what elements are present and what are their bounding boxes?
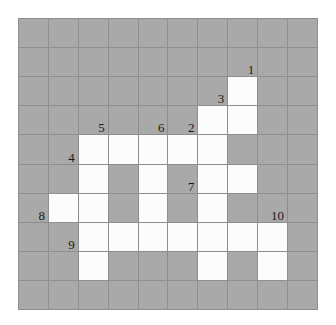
puzzle-grid[interactable]: 13562478109 (18, 18, 318, 310)
grid-cell-r3-c3[interactable] (109, 106, 138, 134)
grid-cell-r6-c1[interactable] (49, 194, 78, 222)
grid-cell-r9-c6[interactable] (198, 281, 227, 309)
grid-cell-r5-c6[interactable] (198, 165, 227, 193)
grid-cell-r2-c7[interactable] (228, 77, 257, 105)
grid-cell-r7-c2[interactable] (79, 223, 108, 251)
grid-cell-r2-c6[interactable]: 3 (198, 77, 227, 105)
grid-cell-r5-c5[interactable]: 7 (168, 165, 197, 193)
grid-cell-r3-c4[interactable]: 6 (139, 106, 168, 134)
grid-cell-r4-c6[interactable] (198, 135, 227, 163)
grid-cell-r9-c7[interactable] (228, 281, 257, 309)
grid-cell-r4-c7[interactable] (228, 135, 257, 163)
grid-cell-r4-c4[interactable] (139, 135, 168, 163)
grid-cell-r7-c6[interactable] (198, 223, 227, 251)
grid-cell-r4-c8[interactable] (258, 135, 287, 163)
grid-cell-r7-c7[interactable] (228, 223, 257, 251)
grid-cell-r4-c5[interactable] (168, 135, 197, 163)
grid-cell-r5-c2[interactable] (79, 165, 108, 193)
grid-cell-r1-c6[interactable] (198, 48, 227, 76)
grid-cell-r6-c8[interactable]: 10 (258, 194, 287, 222)
grid-cell-r0-c2[interactable] (79, 19, 108, 47)
grid-cell-r4-c0[interactable] (19, 135, 48, 163)
grid-cell-r4-c3[interactable] (109, 135, 138, 163)
grid-cell-r1-c4[interactable] (139, 48, 168, 76)
grid-cell-r3-c8[interactable] (258, 106, 287, 134)
grid-cell-r8-c6[interactable] (198, 252, 227, 280)
grid-cell-r9-c3[interactable] (109, 281, 138, 309)
grid-cell-r2-c5[interactable] (168, 77, 197, 105)
grid-cell-r7-c3[interactable] (109, 223, 138, 251)
grid-cell-r6-c5[interactable] (168, 194, 197, 222)
grid-cell-r9-c0[interactable] (19, 281, 48, 309)
grid-cell-r6-c4[interactable] (139, 194, 168, 222)
grid-cell-r0-c6[interactable] (198, 19, 227, 47)
grid-cell-r3-c6[interactable] (198, 106, 227, 134)
grid-cell-r8-c7[interactable] (228, 252, 257, 280)
grid-cell-r1-c0[interactable] (19, 48, 48, 76)
grid-cell-r4-c9[interactable] (288, 135, 317, 163)
grid-cell-r7-c0[interactable] (19, 223, 48, 251)
grid-cell-r0-c0[interactable] (19, 19, 48, 47)
grid-cell-r4-c2[interactable] (79, 135, 108, 163)
grid-cell-r5-c3[interactable] (109, 165, 138, 193)
grid-cell-r4-c1[interactable]: 4 (49, 135, 78, 163)
grid-cell-r5-c7[interactable] (228, 165, 257, 193)
grid-cell-r5-c1[interactable] (49, 165, 78, 193)
grid-cell-r1-c3[interactable] (109, 48, 138, 76)
grid-cell-r8-c2[interactable] (79, 252, 108, 280)
grid-cell-r9-c5[interactable] (168, 281, 197, 309)
grid-cell-r8-c1[interactable] (49, 252, 78, 280)
grid-cell-r1-c8[interactable] (258, 48, 287, 76)
grid-cell-r6-c3[interactable] (109, 194, 138, 222)
grid-cell-r0-c3[interactable] (109, 19, 138, 47)
grid-cell-r1-c9[interactable] (288, 48, 317, 76)
grid-cell-r2-c3[interactable] (109, 77, 138, 105)
grid-cell-r2-c1[interactable] (49, 77, 78, 105)
grid-cell-r5-c8[interactable] (258, 165, 287, 193)
grid-cell-r6-c6[interactable] (198, 194, 227, 222)
grid-cell-r7-c5[interactable] (168, 223, 197, 251)
grid-cell-r3-c7[interactable] (228, 106, 257, 134)
grid-cell-r0-c1[interactable] (49, 19, 78, 47)
grid-cell-r1-c5[interactable] (168, 48, 197, 76)
grid-cell-r6-c7[interactable] (228, 194, 257, 222)
grid-cell-r5-c0[interactable] (19, 165, 48, 193)
grid-cell-r5-c9[interactable] (288, 165, 317, 193)
grid-cell-r1-c1[interactable] (49, 48, 78, 76)
grid-cell-r2-c0[interactable] (19, 77, 48, 105)
grid-cell-r2-c8[interactable] (258, 77, 287, 105)
grid-cell-r3-c1[interactable] (49, 106, 78, 134)
grid-cell-r3-c2[interactable]: 5 (79, 106, 108, 134)
grid-cell-r0-c4[interactable] (139, 19, 168, 47)
grid-cell-r3-c9[interactable] (288, 106, 317, 134)
grid-cell-r8-c0[interactable] (19, 252, 48, 280)
grid-cell-r0-c8[interactable] (258, 19, 287, 47)
grid-cell-r7-c8[interactable] (258, 223, 287, 251)
grid-cell-r9-c8[interactable] (258, 281, 287, 309)
grid-cell-r9-c1[interactable] (49, 281, 78, 309)
grid-cell-r2-c4[interactable] (139, 77, 168, 105)
grid-cell-r6-c2[interactable] (79, 194, 108, 222)
grid-cell-r1-c2[interactable] (79, 48, 108, 76)
grid-cell-r9-c2[interactable] (79, 281, 108, 309)
grid-cell-r2-c9[interactable] (288, 77, 317, 105)
grid-cell-r2-c2[interactable] (79, 77, 108, 105)
grid-cell-r0-c7[interactable] (228, 19, 257, 47)
grid-cell-r9-c4[interactable] (139, 281, 168, 309)
grid-cell-r3-c0[interactable] (19, 106, 48, 134)
grid-cell-r0-c9[interactable] (288, 19, 317, 47)
grid-cell-r5-c4[interactable] (139, 165, 168, 193)
grid-cell-r3-c5[interactable]: 2 (168, 106, 197, 134)
grid-cell-r8-c8[interactable] (258, 252, 287, 280)
grid-cell-r6-c9[interactable] (288, 194, 317, 222)
grid-cell-r7-c9[interactable] (288, 223, 317, 251)
grid-cell-r8-c9[interactable] (288, 252, 317, 280)
grid-cell-r6-c0[interactable]: 8 (19, 194, 48, 222)
grid-cell-r7-c4[interactable] (139, 223, 168, 251)
grid-cell-r0-c5[interactable] (168, 19, 197, 47)
grid-cell-r9-c9[interactable] (288, 281, 317, 309)
grid-cell-r1-c7[interactable]: 1 (228, 48, 257, 76)
grid-cell-r8-c4[interactable] (139, 252, 168, 280)
grid-cell-r8-c3[interactable] (109, 252, 138, 280)
grid-cell-r8-c5[interactable] (168, 252, 197, 280)
